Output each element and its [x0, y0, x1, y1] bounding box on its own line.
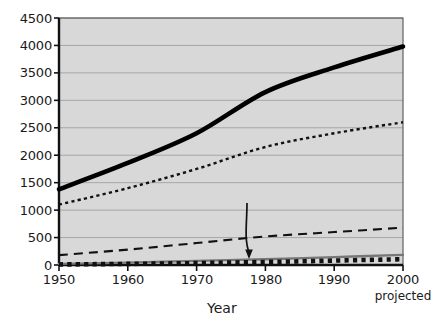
water-use-line-chart: 4500 4000 3500 3000 2500 2000 1500 1000 … — [0, 0, 438, 328]
plot-area — [0, 0, 438, 328]
plot-background — [59, 18, 403, 265]
